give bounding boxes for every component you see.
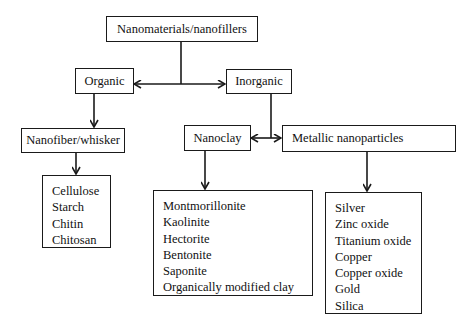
list-item: Gold <box>335 281 421 297</box>
root-node: Nanomaterials/nanofillers <box>106 16 258 42</box>
nanofiber-node: Nanofiber/whisker <box>21 128 125 153</box>
list-item: Chitosan <box>52 232 110 248</box>
nanofiber-list: Cellulose Starch Chitin Chitosan <box>42 175 111 248</box>
metallic-list: Silver Zinc oxide Titanium oxide Copper … <box>325 192 422 314</box>
list-item: Kaolinite <box>163 214 312 230</box>
list-item: Copper <box>335 249 421 265</box>
list-item: Silica <box>335 298 421 314</box>
metallic-node: Metallic nanoparticles <box>282 125 456 152</box>
list-item: Starch <box>52 199 110 215</box>
list-item: Montmorillonite <box>163 198 312 214</box>
list-item: Zinc oxide <box>335 216 421 232</box>
list-item: Cellulose <box>52 183 110 199</box>
organic-label: Organic <box>84 75 124 88</box>
inorganic-node: Inorganic <box>226 69 292 94</box>
list-item: Chitin <box>52 216 110 232</box>
root-label: Nanomaterials/nanofillers <box>117 23 247 36</box>
list-item: Bentonite <box>163 247 312 263</box>
list-item: Copper oxide <box>335 265 421 281</box>
list-item: Organically modified clay <box>163 279 312 295</box>
nanofiber-label: Nanofiber/whisker <box>26 134 120 147</box>
inorganic-label: Inorganic <box>235 75 283 88</box>
list-item: Hectorite <box>163 231 312 247</box>
organic-node: Organic <box>75 68 134 94</box>
list-item: Titanium oxide <box>335 233 421 249</box>
list-item: Saponite <box>163 263 312 279</box>
nanoclay-list: Montmorillonite Kaolinite Hectorite Bent… <box>153 190 313 296</box>
list-item: Silver <box>335 200 421 216</box>
nanoclay-node: Nanoclay <box>184 125 251 151</box>
nanoclay-label: Nanoclay <box>194 132 242 145</box>
metallic-label: Metallic nanoparticles <box>292 132 403 145</box>
